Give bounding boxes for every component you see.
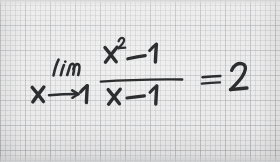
graph-paper-major-grid [0, 0, 280, 162]
graph-paper-photo: lim x→1 (x² − 1)/(x − 1) = 2 [0, 0, 280, 162]
